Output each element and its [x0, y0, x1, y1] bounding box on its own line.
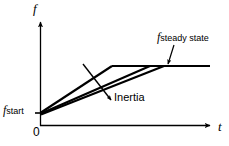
origin-label: 0 — [33, 126, 40, 138]
inertia-label: Inertia — [114, 92, 145, 103]
f-steady-state-subscript: steady state — [160, 33, 209, 43]
f-start-subscript: start — [6, 106, 24, 116]
y-axis-label: f — [33, 2, 37, 15]
ramp-line-low-inertia — [41, 66, 112, 113]
steady-state-leader-arrow — [168, 45, 174, 64]
x-axis-label: t — [218, 120, 222, 133]
f-start-label: fstart — [3, 104, 24, 116]
frequency-vs-time-figure: f t 0 fstart fsteady state Inertia — [0, 0, 229, 146]
ramp-line-medium-inertia — [41, 66, 150, 114]
f-steady-state-label: fsteady state — [157, 31, 209, 43]
